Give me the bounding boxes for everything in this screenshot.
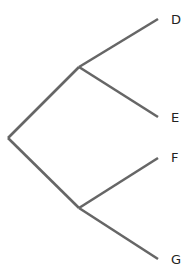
leaf-label-e: E	[171, 110, 179, 125]
tree-diagram: D E F G	[0, 0, 188, 279]
leaf-label-g: G	[171, 252, 181, 267]
leaf-label-d: D	[171, 12, 181, 27]
edge-upper-d	[79, 19, 158, 67]
edge-lower-f	[79, 158, 158, 208]
leaf-labels: D E F G	[171, 12, 181, 267]
edge-root-lower	[8, 138, 79, 208]
leaf-label-f: F	[171, 150, 178, 165]
edge-upper-e	[79, 67, 158, 117]
edge-lower-g	[79, 208, 158, 259]
edge-root-upper	[8, 67, 79, 138]
tree-edges	[8, 19, 158, 259]
